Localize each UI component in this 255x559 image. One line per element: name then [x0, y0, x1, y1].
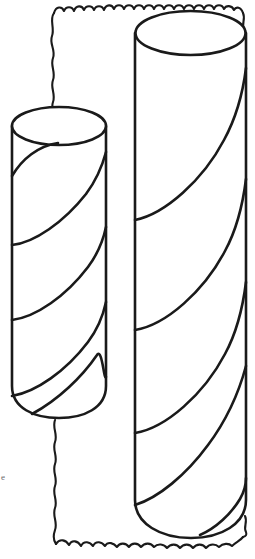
- right-cylinder-body: [135, 33, 246, 538]
- frame-bottom-edge: [56, 537, 243, 548]
- frame-left-edge-lower: [54, 420, 56, 544]
- corner-glyph: e: [1, 472, 5, 482]
- frame-right-edge-lower: [243, 516, 246, 537]
- right-cylinder: [135, 11, 246, 538]
- left-cylinder: [12, 107, 106, 418]
- right-cylinder-top-ellipse: [136, 11, 246, 55]
- drawing-canvas: e: [0, 0, 255, 559]
- line-art-illustration: [0, 0, 255, 559]
- left-cylinder-body: [12, 126, 106, 418]
- left-cylinder-top-ellipse: [12, 107, 106, 145]
